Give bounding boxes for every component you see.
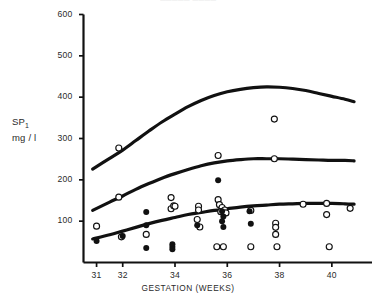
y-tick-label: 500 <box>47 50 73 60</box>
data-point-open <box>215 152 221 158</box>
upper-centile-curve <box>93 87 354 169</box>
y-axis-label-symbol: SP <box>12 116 25 127</box>
data-point-open <box>324 212 330 218</box>
data-point-open <box>248 244 254 250</box>
data-point-filled <box>220 224 226 230</box>
data-point-open <box>273 231 279 237</box>
clipped-title-text: ░░░░░ ░░░░ <box>160 0 216 1</box>
y-tick-label: 600 <box>47 9 73 19</box>
chart-figure: ░░░░░ ░░░░ SP1 mg / l GESTATION (WEEKS) … <box>0 0 376 301</box>
data-point-open <box>196 207 202 213</box>
data-point-filled <box>215 177 221 183</box>
data-point-open <box>116 194 122 200</box>
data-point-open <box>220 244 226 250</box>
data-point-open <box>143 231 149 237</box>
data-point-filled <box>143 222 149 228</box>
clipped-title-remnant: ░░░░░ ░░░░ <box>0 0 376 7</box>
data-point-filled <box>219 218 225 224</box>
x-tick-label: 34 <box>163 270 187 280</box>
data-point-filled <box>248 221 254 227</box>
data-point-filled <box>219 208 225 214</box>
data-point-open <box>326 244 332 250</box>
data-point-open <box>273 224 279 230</box>
data-point-open <box>347 205 353 211</box>
x-tick-label: 32 <box>111 270 135 280</box>
data-point-open <box>94 223 100 229</box>
data-point-open <box>271 156 277 162</box>
y-tick-label: 100 <box>47 215 73 225</box>
data-point-filled <box>143 245 149 251</box>
data-point-open <box>271 116 277 122</box>
x-tick-label: 31 <box>85 270 109 280</box>
data-points-layer <box>94 116 354 252</box>
data-point-open <box>116 145 122 151</box>
data-point-filled <box>143 209 149 215</box>
data-point-filled <box>194 222 200 228</box>
data-point-open <box>168 195 174 201</box>
data-point-open <box>300 201 306 207</box>
data-point-open <box>274 244 280 250</box>
data-point-open <box>172 203 178 209</box>
plot-area <box>0 0 376 301</box>
data-point-filled <box>247 208 253 214</box>
data-point-filled <box>169 246 175 252</box>
x-tick-label: 36 <box>215 270 239 280</box>
axis-lines <box>79 15 372 268</box>
x-tick-label: 38 <box>268 270 292 280</box>
y-axis-label-subscript: 1 <box>25 122 29 129</box>
y-axis-label-line1: SP1 <box>12 116 60 132</box>
y-tick-label: 200 <box>47 174 73 184</box>
y-tick-label: 400 <box>47 91 73 101</box>
data-point-filled <box>120 233 126 239</box>
data-point-open <box>214 244 220 250</box>
data-point-open <box>324 200 330 206</box>
y-tick-label: 300 <box>47 133 73 143</box>
data-point-open <box>194 217 200 223</box>
x-tick-label: 40 <box>320 270 344 280</box>
x-axis-label: GESTATION (WEEKS) <box>0 283 376 293</box>
data-point-filled <box>94 238 100 244</box>
